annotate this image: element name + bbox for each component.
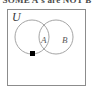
set-a-label: A: [41, 36, 47, 45]
venn-diagram-circles: [8, 10, 87, 87]
element-marker-square: [30, 51, 35, 56]
caption-text-sliver: SOME A's are NOT B: [0, 0, 94, 5]
set-b-label: B: [62, 36, 68, 45]
caption-label: SOME A's are NOT B: [0, 0, 94, 5]
universe-set-box: U A B: [7, 9, 86, 86]
